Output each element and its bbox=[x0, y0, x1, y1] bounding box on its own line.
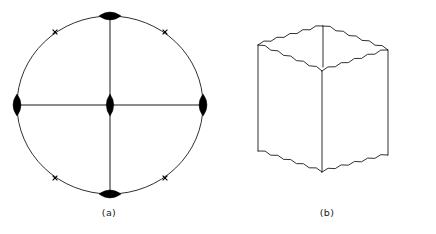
pole-marker-top bbox=[99, 12, 121, 20]
caption-panel-b: (b) bbox=[218, 208, 436, 218]
serrated-cube-diagram bbox=[218, 0, 436, 234]
pole-marker-bottom bbox=[99, 190, 121, 198]
bottom-edge-front-right bbox=[322, 155, 388, 172]
bottom-edge-front-left bbox=[258, 151, 322, 172]
pole-marker-right bbox=[199, 94, 207, 116]
pole-figure-diagram bbox=[0, 0, 218, 234]
figure-root: (a) (b) bbox=[0, 0, 436, 234]
top-edge-back-left bbox=[258, 26, 323, 45]
top-edge-back-right bbox=[323, 26, 388, 50]
caption-panel-a: (a) bbox=[0, 208, 218, 218]
pole-marker-center bbox=[106, 94, 113, 116]
top-edge-front-left bbox=[258, 45, 322, 71]
pole-marker-left bbox=[13, 94, 21, 116]
figure-panel-b: (b) bbox=[218, 0, 436, 234]
figure-panel-a: (a) bbox=[0, 0, 218, 234]
top-edge-front-right bbox=[322, 50, 388, 71]
